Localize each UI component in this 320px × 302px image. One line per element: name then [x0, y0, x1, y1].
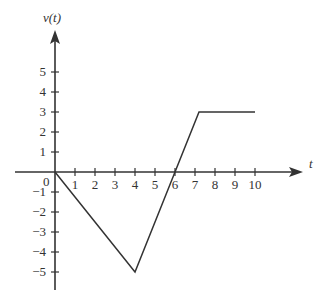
x-tick-label: 7: [192, 177, 199, 192]
x-tick-label: 10: [249, 177, 262, 192]
x-tick-label: 9: [232, 177, 239, 192]
x-tick-label: 4: [132, 177, 139, 192]
x-tick-label: 2: [92, 177, 99, 192]
y-tick-label: 3: [40, 104, 47, 119]
axes: [15, 30, 303, 290]
y-tick-label: −1: [32, 184, 46, 199]
tick-labels: tv(t)01234567891054321−1−2−3−4−5: [32, 10, 313, 279]
data-series: [55, 112, 255, 272]
x-axis-title: t: [309, 156, 313, 171]
y-tick-label: −3: [32, 224, 46, 239]
y-tick-label: 1: [40, 144, 47, 159]
y-tick-label: −5: [32, 264, 46, 279]
y-tick-label: 2: [40, 124, 47, 139]
y-tick-label: −4: [32, 244, 46, 259]
x-tick-label: 3: [112, 177, 119, 192]
series-line: [55, 112, 255, 272]
x-tick-label: 5: [152, 177, 159, 192]
x-tick-label: 8: [212, 177, 219, 192]
y-tick-label: −2: [32, 204, 46, 219]
chart-canvas: tv(t)01234567891054321−1−2−3−4−5: [0, 0, 320, 302]
y-axis-title: v(t): [43, 10, 61, 25]
y-tick-label: 5: [40, 64, 47, 79]
x-tick-label: 1: [72, 177, 79, 192]
y-tick-label: 4: [40, 84, 47, 99]
